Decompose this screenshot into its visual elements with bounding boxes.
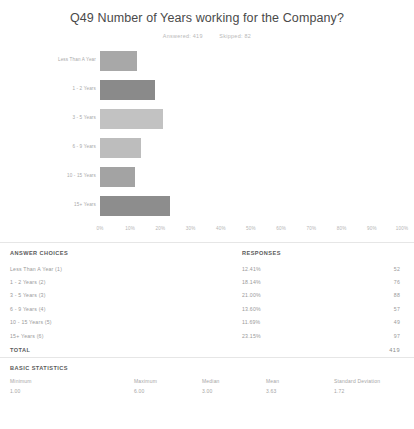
answered-count: Answered: 419 (163, 33, 203, 39)
cell-answer-choice: Less Than A Year (1) (10, 266, 242, 272)
statistic-cell: Median3.00 (202, 378, 266, 394)
cell-response-count: 49 (362, 319, 404, 325)
x-axis-tick-label: 50% (246, 226, 256, 231)
answer-choices-table: ANSWER CHOICES RESPONSES Less Than A Yea… (0, 243, 414, 357)
cell-response-count: 57 (362, 306, 404, 312)
table-body: Less Than A Year (1)12.41%521 - 2 Years … (10, 262, 404, 342)
x-axis-tick-label: 20% (155, 226, 165, 231)
cell-answer-choice: 15+ Years (6) (10, 333, 242, 339)
cell-answer-choice: 3 - 5 Years (3) (10, 292, 242, 298)
column-header-responses: RESPONSES (242, 250, 404, 256)
chart-category-label: 10 - 15 Years (4, 173, 96, 180)
table-row-total: TOTAL 419 (10, 342, 404, 357)
statistic-cell: Maximum6.00 (134, 378, 202, 394)
chart-category-label: 15+ Years (4, 202, 96, 209)
page-title: Q49 Number of Years working for the Comp… (0, 0, 414, 25)
response-summary: Answered: 419 Skipped: 82 (0, 25, 414, 39)
cell-answer-choice: 10 - 15 Years (5) (10, 319, 242, 325)
cell-response-percent: 13.60% (242, 306, 362, 312)
cell-response-percent: 18.14% (242, 279, 362, 285)
chart-category-label: Less Than A Year (4, 57, 96, 64)
x-axis-tick-label: 90% (367, 226, 377, 231)
column-header-answer-choices: ANSWER CHOICES (10, 250, 242, 256)
statistic-value: 1.72 (334, 384, 414, 394)
cell-response-count: 97 (362, 333, 404, 339)
chart-bar[interactable] (100, 51, 137, 71)
statistic-value: 1.00 (10, 384, 134, 394)
table-row: 3 - 5 Years (3)21.00%88 (10, 289, 404, 302)
cell-response-percent: 21.00% (242, 292, 362, 298)
basic-statistics-section: BASIC STATISTICS Minimum1.00Maximum6.00M… (0, 358, 414, 394)
chart-category-label: 6 - 9 Years (4, 144, 96, 151)
chart-bar[interactable] (100, 196, 170, 216)
chart-bar-row: Less Than A Year (100, 46, 402, 75)
chart-bar-row: 1 - 2 Years (100, 75, 402, 104)
table-row: 6 - 9 Years (4)13.60%57 (10, 302, 404, 315)
chart-bar-row: 3 - 5 Years (100, 104, 402, 133)
x-axis-tick-label: 10% (125, 226, 135, 231)
cell-response-percent: 12.41% (242, 266, 362, 272)
survey-results-page: Q49 Number of Years working for the Comp… (0, 0, 414, 429)
chart-bar-row: 10 - 15 Years (100, 162, 402, 191)
chart-category-label: 1 - 2 Years (4, 86, 96, 93)
chart-x-axis: 0%10%20%30%40%50%60%70%80%90%100% (100, 222, 402, 242)
basic-statistics-grid: Minimum1.00Maximum6.00Median3.00Mean3.63… (10, 371, 404, 394)
x-axis-tick-label: 0% (96, 226, 103, 231)
x-axis-tick-label: 40% (216, 226, 226, 231)
x-axis-tick-label: 60% (276, 226, 286, 231)
cell-response-percent: 11.69% (242, 319, 362, 325)
statistic-cell: Mean3.63 (266, 378, 334, 394)
chart-category-label: 3 - 5 Years (4, 115, 96, 122)
cell-response-count: 52 (362, 266, 404, 272)
cell-response-count: 76 (362, 279, 404, 285)
table-row: 10 - 15 Years (5)11.69%49 (10, 316, 404, 329)
chart-bar[interactable] (100, 167, 135, 187)
table-header-row: ANSWER CHOICES RESPONSES (10, 243, 404, 262)
statistic-cell: Minimum1.00 (10, 378, 134, 394)
x-axis-tick-label: 100% (396, 226, 409, 231)
cell-answer-choice: 1 - 2 Years (2) (10, 279, 242, 285)
cell-answer-choice: 6 - 9 Years (4) (10, 306, 242, 312)
chart-plot-area: Less Than A Year1 - 2 Years3 - 5 Years6 … (100, 46, 402, 220)
chart-bar[interactable] (100, 80, 155, 100)
table-row: 15+ Years (6)23.15%97 (10, 329, 404, 342)
total-label: TOTAL (10, 347, 242, 353)
x-axis-tick-label: 30% (186, 226, 196, 231)
statistic-cell: Standard Deviation1.72 (334, 378, 414, 394)
total-value: 419 (362, 347, 404, 353)
statistic-value: 3.00 (202, 384, 266, 394)
statistic-value: 6.00 (134, 384, 202, 394)
statistic-value: 3.63 (266, 384, 334, 394)
chart-bar-row: 6 - 9 Years (100, 133, 402, 162)
chart-bar-row: 15+ Years (100, 191, 402, 220)
skipped-count: Skipped: 82 (219, 33, 251, 39)
cell-response-count: 88 (362, 292, 404, 298)
table-row: 1 - 2 Years (2)18.14%76 (10, 275, 404, 288)
x-axis-tick-label: 70% (306, 226, 316, 231)
cell-response-percent: 23.15% (242, 333, 362, 339)
table-row: Less Than A Year (1)12.41%52 (10, 262, 404, 275)
x-axis-tick-label: 80% (337, 226, 347, 231)
chart-bar[interactable] (100, 138, 141, 158)
basic-statistics-heading: BASIC STATISTICS (10, 358, 404, 371)
chart-bar[interactable] (100, 109, 163, 129)
chart-bar-rows: Less Than A Year1 - 2 Years3 - 5 Years6 … (100, 46, 402, 220)
bar-chart: Less Than A Year1 - 2 Years3 - 5 Years6 … (0, 46, 414, 242)
